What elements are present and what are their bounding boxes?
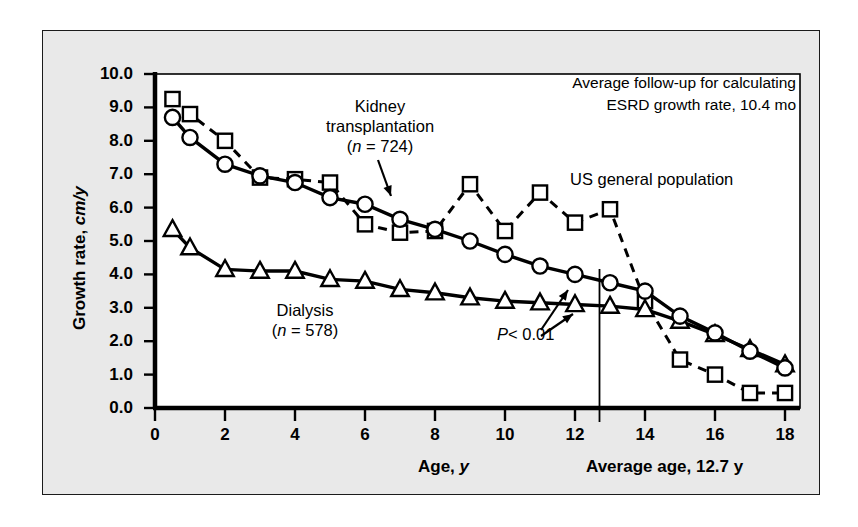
data-point-circle (182, 130, 197, 145)
data-point-circle (567, 267, 582, 282)
data-point-square (358, 217, 372, 231)
x-axis-label-text: Age, (418, 457, 460, 476)
x-tick-label: 18 (765, 425, 805, 445)
y-tick-label: 8.0 (77, 131, 133, 151)
followup-line-2: ESRD growth rate, 10.4 mo (520, 94, 796, 116)
data-point-square (673, 352, 687, 366)
followup-annotation: Average follow-up for calculating ESRD g… (520, 72, 796, 116)
data-point-circle (532, 258, 547, 273)
data-point-circle (217, 157, 232, 172)
data-point-square (165, 92, 179, 106)
data-point-square (743, 386, 757, 400)
x-tick-label: 6 (345, 425, 385, 445)
data-point-circle (322, 190, 337, 205)
data-point-square (218, 134, 232, 148)
data-point-circle (707, 325, 722, 340)
data-point-square (463, 177, 477, 191)
figure-container: Growth rate, cm/y Age, y Average age, 12… (0, 0, 858, 527)
data-point-circle (165, 110, 180, 125)
x-tick-label: 2 (205, 425, 245, 445)
kidney-label-n: (n = 724) (300, 136, 460, 156)
data-point-circle (497, 247, 512, 262)
x-tick-label: 0 (135, 425, 175, 445)
y-tick-label: 5.0 (77, 231, 133, 251)
average-age-caption: Average age, 12.7 y (586, 457, 743, 477)
y-tick-label: 2.0 (77, 331, 133, 351)
y-tick-label: 6.0 (77, 198, 133, 218)
y-tick-label: 9.0 (77, 97, 133, 117)
data-point-square (568, 216, 582, 230)
data-point-circle (392, 212, 407, 227)
y-tick-label: 3.0 (77, 298, 133, 318)
data-point-circle (637, 284, 652, 299)
data-point-circle (462, 233, 477, 248)
data-point-circle (672, 309, 687, 324)
series-label-dialysis: Dialysis (n = 578) (240, 300, 370, 340)
y-tick-label: 7.0 (77, 164, 133, 184)
followup-line-1: Average follow-up for calculating (520, 72, 796, 94)
y-tick-label: 10.0 (77, 64, 133, 84)
data-point-square (708, 368, 722, 382)
series-label-us-general-population: US general population (570, 170, 733, 189)
data-point-square (778, 386, 792, 400)
dialysis-label-n: (n = 578) (240, 320, 370, 340)
data-point-square (533, 185, 547, 199)
y-tick-label: 1.0 (77, 365, 133, 385)
data-point-square (603, 202, 617, 216)
x-axis-label: Age, y (418, 457, 469, 477)
data-point-circle (742, 344, 757, 359)
x-tick-label: 12 (555, 425, 595, 445)
x-tick-label: 8 (415, 425, 455, 445)
data-point-circle (357, 197, 372, 212)
y-tick-label: 0.0 (77, 398, 133, 418)
x-tick-label: 4 (275, 425, 315, 445)
data-point-circle (777, 360, 792, 375)
x-tick-label: 10 (485, 425, 525, 445)
x-tick-label: 14 (625, 425, 665, 445)
dialysis-label-line-1: Dialysis (240, 300, 370, 320)
data-point-square (323, 175, 337, 189)
data-point-circle (287, 175, 302, 190)
data-point-circle (427, 222, 442, 237)
x-tick-label: 16 (695, 425, 735, 445)
pvalue-annotation: P< 0.01 (497, 325, 554, 344)
kidney-label-line-1: Kidney (300, 96, 460, 116)
y-tick-label: 4.0 (77, 264, 133, 284)
data-point-square (183, 107, 197, 121)
data-point-circle (252, 168, 267, 183)
kidney-label-line-2: transplantation (300, 116, 460, 136)
x-axis-units: y (460, 457, 469, 476)
data-point-square (498, 224, 512, 238)
series-label-kidney-transplantation: Kidney transplantation (n = 724) (300, 96, 460, 156)
data-point-circle (602, 275, 617, 290)
